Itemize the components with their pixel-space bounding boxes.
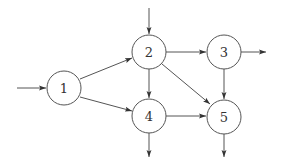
node-label: 1	[60, 81, 68, 96]
flow-graph: 12345	[0, 0, 281, 165]
nodes-layer: 12345	[47, 35, 241, 134]
node-label: 3	[220, 45, 228, 60]
node-4: 4	[132, 99, 166, 133]
node-1: 1	[47, 71, 81, 105]
node-5: 5	[207, 100, 241, 134]
node-label: 5	[220, 110, 228, 125]
node-label: 2	[145, 45, 153, 60]
node-3: 3	[207, 35, 241, 69]
edge-1-to-4-arrow-icon	[80, 97, 132, 111]
edge-1-to-2-arrow-icon	[80, 58, 132, 79]
node-label: 4	[145, 109, 153, 124]
node-2: 2	[132, 35, 166, 69]
edge-2-to-5-arrow-icon	[162, 64, 210, 104]
